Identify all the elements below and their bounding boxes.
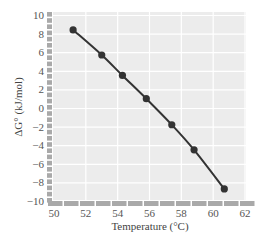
data-point-marker: [70, 26, 77, 33]
data-point-marker: [98, 51, 105, 58]
x-tick-label: 58: [176, 207, 188, 219]
x-tick-labels: 50525456586062: [49, 207, 251, 219]
y-tick-label: −2: [32, 121, 44, 133]
x-axis-label: Temperature (°C): [111, 220, 189, 233]
delta-g-vs-temperature-chart: 1086420−2−4−6−8−10 50525456586062 Temper…: [0, 0, 264, 243]
y-tick-label: −10: [27, 195, 45, 207]
data-point-marker: [168, 121, 175, 128]
y-tick-label: −6: [32, 158, 44, 170]
y-axis-bar: [47, 12, 52, 203]
x-tick-label: 52: [80, 207, 91, 219]
x-tick-label: 50: [49, 207, 61, 219]
y-axis-label: ΔG° (kJ/mol): [12, 77, 25, 137]
x-tick-label: 54: [112, 207, 124, 219]
y-tick-labels: 1086420−2−4−6−8−10: [27, 9, 45, 207]
data-point-marker: [221, 185, 228, 192]
y-tick-label: 4: [39, 65, 45, 77]
y-tick-label: −8: [32, 176, 44, 188]
data-point-marker: [143, 95, 150, 102]
data-point-marker: [119, 72, 126, 79]
y-tick-label: 2: [39, 83, 45, 95]
y-tick-label: −4: [32, 139, 44, 151]
y-tick-label: 6: [39, 46, 45, 58]
y-tick-label: 0: [39, 102, 45, 114]
x-tick-label: 62: [240, 207, 251, 219]
x-axis-bar: [48, 201, 255, 206]
y-tick-label: 8: [39, 28, 45, 40]
y-tick-label: 10: [33, 9, 45, 21]
x-tick-label: 60: [208, 207, 220, 219]
x-tick-label: 56: [144, 207, 156, 219]
data-point-marker: [190, 146, 197, 153]
